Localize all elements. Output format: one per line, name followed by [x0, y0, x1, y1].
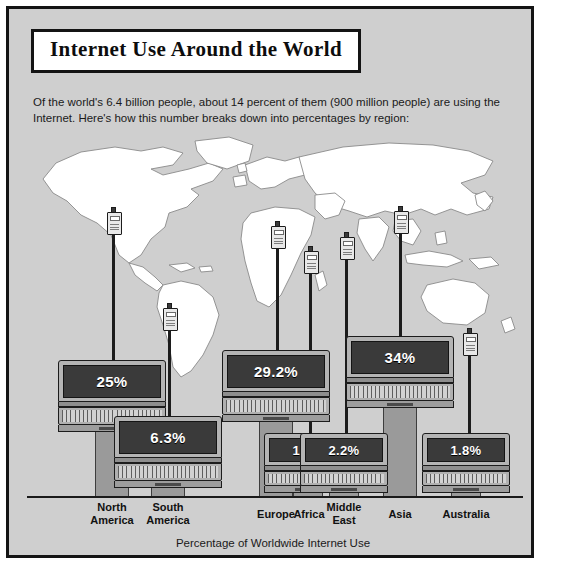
- laptop-south-america: 6.3%: [114, 416, 222, 488]
- value-middle-east: 2.2%: [329, 443, 360, 458]
- region-label-line2: America: [128, 514, 208, 527]
- chart-caption: Percentage of Worldwide Internet Use: [9, 537, 534, 549]
- laptop-asia: 34%: [346, 336, 454, 408]
- plug-europe: [271, 221, 284, 251]
- infographic-panel: Internet Use Around the World Of the wor…: [6, 6, 534, 558]
- source-credit-wrap: Source: www.internetworldstats.com: [509, 401, 525, 551]
- plug-south-america: [163, 303, 176, 333]
- region-label-south-america: South America: [128, 501, 208, 526]
- infographic-page: Internet Use Around the World Of the wor…: [0, 0, 563, 565]
- region-label-line1: Australia: [426, 508, 506, 521]
- region-label-australia: Australia: [426, 508, 506, 521]
- pedestal-asia: [383, 395, 417, 496]
- plug-north-america: [107, 207, 120, 237]
- intro-text: Of the world's 6.4 billion people, about…: [33, 94, 503, 126]
- page-title: Internet Use Around the World: [50, 37, 342, 62]
- plug-middle-east: [340, 232, 353, 262]
- cable-south-america: [168, 319, 171, 427]
- laptop-middle-east: 2.2%: [300, 433, 388, 493]
- value-europe: 29.2%: [254, 363, 298, 380]
- chart-baseline: [27, 496, 523, 498]
- value-north-america: 25%: [97, 373, 128, 390]
- laptop-europe: 29.2%: [222, 350, 330, 422]
- cable-north-america: [112, 223, 115, 371]
- title-box: Internet Use Around the World: [31, 29, 361, 73]
- value-asia: 34%: [385, 349, 416, 366]
- value-south-america: 6.3%: [150, 429, 185, 446]
- plug-australia: [463, 328, 476, 358]
- region-label-line1: South: [128, 501, 208, 514]
- plug-africa: [304, 246, 317, 276]
- laptop-australia: 1.8%: [422, 433, 510, 493]
- plug-asia: [394, 206, 407, 236]
- cable-asia: [399, 222, 402, 344]
- value-australia: 1.8%: [451, 443, 482, 458]
